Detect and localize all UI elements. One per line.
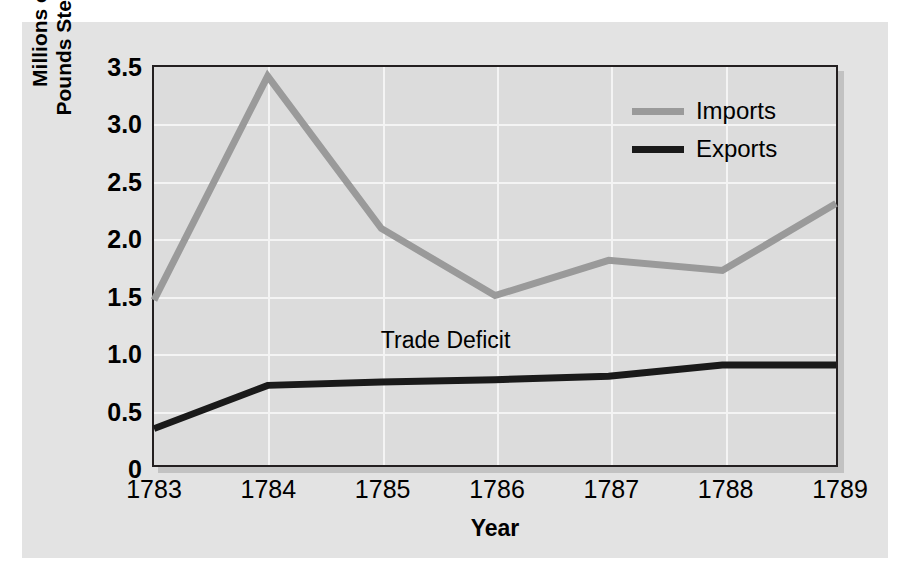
x-tick-label: 1786 xyxy=(469,475,525,504)
legend-item-exports: Exports xyxy=(632,137,777,161)
x-tick-label: 1783 xyxy=(126,475,182,504)
x-tick-label: 1789 xyxy=(812,475,868,504)
plot-area: 00.51.01.52.02.53.03.5 17831784178517861… xyxy=(152,65,838,467)
y-axis-title: Millions of Pounds Sterling xyxy=(28,0,75,150)
y-tick-label: 3.5 xyxy=(107,53,142,82)
y-tick-label: 2.0 xyxy=(107,225,142,254)
x-tick-label: 1788 xyxy=(698,475,754,504)
y-axis-title-line-2: Pounds Sterling xyxy=(52,0,76,150)
y-tick-label: 1.5 xyxy=(107,282,142,311)
y-tick-label: 0.5 xyxy=(107,397,142,426)
chart-legend: ImportsExports xyxy=(632,99,777,161)
y-axis-title-line-1: Millions of xyxy=(28,0,52,150)
x-tick-label: 1785 xyxy=(355,475,411,504)
x-tick-label: 1787 xyxy=(584,475,640,504)
y-tick-label: 1.0 xyxy=(107,340,142,369)
legend-swatch-exports xyxy=(632,146,684,153)
y-tick-label: 3.0 xyxy=(107,110,142,139)
legend-item-imports: Imports xyxy=(632,99,777,123)
legend-label-exports: Exports xyxy=(696,137,777,161)
x-axis-title: Year xyxy=(152,515,838,542)
legend-label-imports: Imports xyxy=(696,99,776,123)
legend-swatch-imports xyxy=(632,108,684,115)
series-line-exports xyxy=(154,365,836,429)
y-tick-label: 2.5 xyxy=(107,167,142,196)
trade-deficit-annotation: Trade Deficit xyxy=(381,327,511,354)
chart-figure: 00.51.01.52.02.53.03.5 17831784178517861… xyxy=(0,0,911,579)
x-tick-label: 1784 xyxy=(241,475,297,504)
